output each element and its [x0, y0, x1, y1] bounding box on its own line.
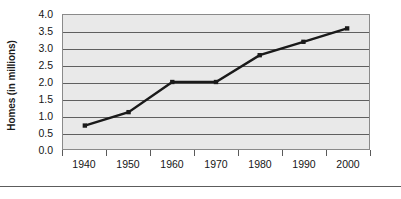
- series-markers: [83, 26, 350, 127]
- data-point: [258, 53, 262, 57]
- y-axis-title-container: Homes (in millions): [0, 0, 22, 170]
- data-point: [214, 80, 218, 84]
- x-tick-label: 1980: [248, 158, 271, 170]
- plot-area: [62, 14, 370, 150]
- x-tick-mark: [150, 150, 151, 156]
- x-tick-mark: [106, 150, 107, 156]
- x-tick-mark: [326, 150, 327, 156]
- x-axis-tick-labels: 1940195019601970198019902000: [62, 158, 370, 176]
- y-tick-label: 2.5: [38, 59, 53, 71]
- y-tick-label: 3.0: [38, 42, 53, 54]
- data-point: [301, 40, 305, 44]
- x-tick-mark: [194, 150, 195, 156]
- y-tick-label: 2.0: [38, 76, 53, 88]
- x-tick-label: 1970: [204, 158, 227, 170]
- x-tick-label: 1940: [72, 158, 95, 170]
- x-tick-label: 2000: [336, 158, 359, 170]
- line-series: [63, 15, 369, 149]
- y-tick-label: 1.0: [38, 110, 53, 122]
- data-point: [83, 123, 87, 127]
- data-point: [126, 110, 130, 114]
- y-tick-label: 1.5: [38, 93, 53, 105]
- x-tick-label: 1960: [160, 158, 183, 170]
- y-tick-label: 0.5: [38, 127, 53, 139]
- x-tick-mark: [370, 150, 371, 156]
- x-tick-mark: [238, 150, 239, 156]
- y-axis-tick-labels: 0.00.51.01.52.02.53.03.54.0: [22, 8, 56, 150]
- data-point: [345, 26, 349, 30]
- y-axis-title: Homes (in millions): [6, 40, 17, 130]
- bottom-divider: [0, 186, 401, 187]
- x-tick-label: 1990: [292, 158, 315, 170]
- series-line: [85, 28, 347, 125]
- x-tick-mark: [62, 150, 63, 156]
- x-tick-label: 1950: [116, 158, 139, 170]
- chart-figure: Homes (in millions) 0.00.51.01.52.02.53.…: [0, 0, 401, 199]
- data-point: [170, 80, 174, 84]
- x-tick-mark: [282, 150, 283, 156]
- y-tick-label: 4.0: [38, 8, 53, 20]
- y-tick-label: 0.0: [38, 144, 53, 156]
- y-tick-label: 3.5: [38, 25, 53, 37]
- x-axis-ticks: [62, 150, 370, 156]
